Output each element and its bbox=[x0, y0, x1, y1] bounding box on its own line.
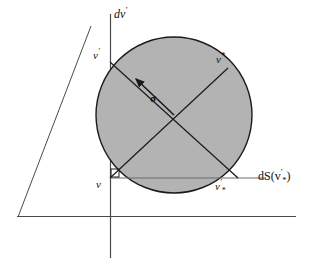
axis-label-dv-prime-base: dv bbox=[114, 7, 125, 21]
axis-label-ds-close: ) bbox=[286, 169, 290, 183]
axis-label-dv-prime: dv' bbox=[114, 6, 127, 20]
point-label-v-star-mark: * bbox=[221, 51, 225, 60]
axis-label-dv-prime-mark: ' bbox=[125, 5, 127, 15]
point-label-v-prime-star: v'* bbox=[215, 179, 225, 195]
point-label-v-star: v* bbox=[216, 52, 225, 65]
sigma-label: σ bbox=[150, 93, 156, 104]
wedge-slanted-line bbox=[18, 26, 91, 217]
point-label-v-prime: v' bbox=[93, 48, 100, 61]
point-label-v-prime-star-star: * bbox=[222, 186, 226, 195]
point-label-v-base: v bbox=[96, 178, 101, 190]
axis-label-ds-vprimestar: dS(v'*) bbox=[258, 168, 290, 186]
collision-geometry-figure bbox=[0, 0, 311, 268]
axis-label-ds-open: dS(v bbox=[258, 169, 281, 183]
point-label-v: v bbox=[96, 179, 101, 190]
point-label-v-prime-mark: ' bbox=[98, 47, 100, 56]
